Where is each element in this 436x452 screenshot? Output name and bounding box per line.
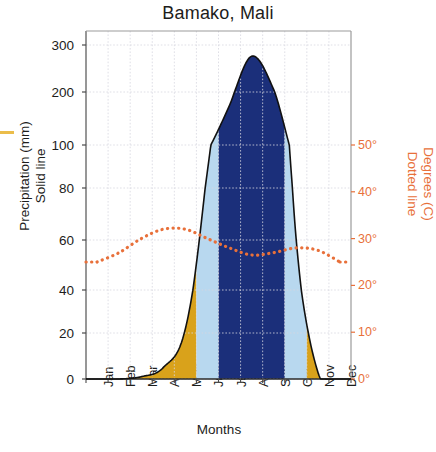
dry-season-band (86, 31, 196, 379)
climate-chart: Bamako, Mali Precipitation (mm) Solid li… (0, 0, 436, 452)
transition-band-early (196, 31, 218, 379)
plot-area (0, 0, 436, 452)
wet-season-band (219, 31, 285, 379)
transition-band-late (285, 31, 307, 379)
grid-lines (86, 31, 351, 379)
